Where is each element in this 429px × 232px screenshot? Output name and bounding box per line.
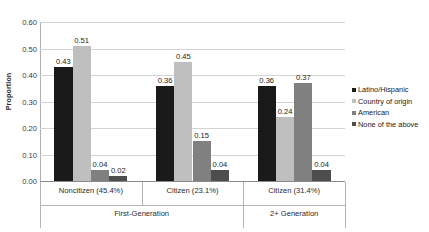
legend-item[interactable]: None of the above xyxy=(352,119,429,131)
generation-group-label: 2+ Generation xyxy=(270,209,318,218)
category-label: Citizen (23.1%) xyxy=(167,186,219,195)
bar-value-label: 0.51 xyxy=(74,36,89,45)
legend-item[interactable]: American xyxy=(352,107,429,119)
bar-value-label: 0.36 xyxy=(259,76,274,85)
category-label: Citizen (31.4%) xyxy=(268,186,320,195)
bar-value-label: 0.45 xyxy=(176,52,191,61)
bar xyxy=(312,170,330,181)
generation-group-label: First-Generation xyxy=(114,209,169,218)
y-axis-tick-label: 0.60 xyxy=(22,18,37,27)
y-axis-title-text: Proportion xyxy=(5,72,14,110)
bar xyxy=(174,62,192,181)
bar-value-label: 0.02 xyxy=(111,166,126,175)
category-row-divider xyxy=(40,205,345,206)
legend-label: Latino/Hispanic xyxy=(358,86,409,93)
plot-area: 0.430.510.040.020.360.450.150.040.360.24… xyxy=(40,22,345,181)
y-axis-tick-label: 0.30 xyxy=(22,97,37,106)
bar-value-label: 0.24 xyxy=(278,107,293,116)
legend-swatch-icon xyxy=(352,111,356,115)
legend-item[interactable]: Latino/Hispanic xyxy=(352,84,429,96)
bar xyxy=(109,176,127,181)
bar xyxy=(276,117,294,181)
legend-swatch-icon xyxy=(352,122,356,126)
legend-label: American xyxy=(358,109,389,116)
category-separator xyxy=(142,182,143,205)
bar xyxy=(258,86,276,181)
bar-value-label: 0.37 xyxy=(296,73,311,82)
y-axis-tick-label: 0.20 xyxy=(22,124,37,133)
gridline xyxy=(40,22,345,23)
bar-value-label: 0.43 xyxy=(56,57,71,66)
bar xyxy=(193,141,211,181)
y-axis-tick-label: 0.40 xyxy=(22,71,37,80)
bar-value-label: 0.04 xyxy=(314,160,329,169)
y-axis-tick-label: 0.50 xyxy=(22,44,37,53)
y-axis-tick-label: 0.10 xyxy=(22,150,37,159)
category-axis: Noncitizen (45.4%)Citizen (23.1%)Citizen… xyxy=(40,182,345,232)
legend-label: Country of origin xyxy=(358,98,412,105)
bar-value-label: 0.36 xyxy=(158,76,173,85)
legend-swatch-icon xyxy=(352,99,356,103)
bar-value-label: 0.04 xyxy=(213,160,228,169)
bar-chart: Proportion 0.600.500.400.300.200.100.00 … xyxy=(0,0,429,232)
group-separator xyxy=(345,182,346,228)
y-axis-tick-labels: 0.600.500.400.300.200.100.00 xyxy=(14,0,40,232)
bar xyxy=(54,67,72,181)
bar xyxy=(91,170,109,181)
legend-swatch-icon xyxy=(352,88,356,92)
bar xyxy=(73,46,91,181)
legend: Latino/HispanicCountry of originAmerican… xyxy=(352,84,429,130)
legend-item[interactable]: Country of origin xyxy=(352,96,429,108)
category-label: Noncitizen (45.4%) xyxy=(59,186,123,195)
bar xyxy=(156,86,174,181)
y-axis-tick-label: 0.00 xyxy=(22,177,37,186)
legend-label: None of the above xyxy=(358,121,418,128)
bar-value-label: 0.15 xyxy=(194,131,209,140)
bar xyxy=(211,170,229,181)
bar-value-label: 0.04 xyxy=(93,160,108,169)
bar xyxy=(294,83,312,181)
